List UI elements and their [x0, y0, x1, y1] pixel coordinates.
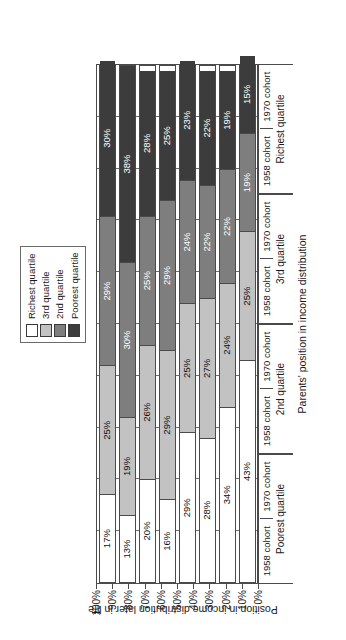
bar-segment[interactable]: 16%	[160, 499, 175, 582]
x-axis-group: 1958 cohort1970 cohort3rd quartile	[259, 194, 293, 324]
segment-value-label: 20%	[142, 521, 152, 540]
bar-segment[interactable]: 19%	[120, 417, 135, 515]
stacked-bar[interactable]: 17%25%29%30%	[99, 65, 116, 583]
legend-item[interactable]: 3rd quartile	[39, 252, 52, 337]
bar-segment[interactable]: 34%	[220, 407, 235, 582]
bar-segment[interactable]: 43%	[240, 360, 255, 582]
y-axis-title: Position in income distribution later in…	[83, 604, 283, 616]
segment-value-label: 29%	[162, 266, 172, 285]
legend-item[interactable]: 2nd quartile	[54, 252, 67, 337]
segment-value-label: 25%	[242, 287, 252, 306]
x-axis-cohort-label: 1958 cohort	[260, 519, 273, 584]
bar-segment[interactable]: 29%	[160, 200, 175, 350]
segment-value-label: 29%	[162, 416, 172, 435]
chart-canvas: Richest quartile3rd quartile2nd quartile…	[0, 0, 346, 640]
segment-value-label: 22%	[202, 118, 212, 137]
segment-value-label: 34%	[222, 485, 232, 504]
stacked-bar[interactable]: 28%27%22%22%	[199, 65, 216, 583]
stacked-bar[interactable]: 20%26%25%28%	[139, 65, 156, 583]
bar-segment[interactable]: 24%	[220, 283, 235, 407]
bar-segment[interactable]: 24%	[180, 180, 195, 304]
segment-value-label: 19%	[122, 457, 132, 476]
segment-value-label: 24%	[182, 232, 192, 251]
stacked-bar[interactable]: 16%29%29%25%	[159, 65, 176, 583]
swatch-richest	[26, 324, 38, 337]
x-axis-group-label: 2nd quartile	[275, 325, 286, 453]
segment-value-label: 38%	[122, 155, 132, 174]
bar-segment[interactable]: 29%	[180, 432, 195, 582]
segment-value-label: 16%	[162, 532, 172, 551]
bar-segment[interactable]: 22%	[200, 185, 215, 299]
segment-value-label: 25%	[182, 359, 192, 378]
legend-item[interactable]: Richest quartile	[25, 252, 38, 337]
bar-segment[interactable]: 29%	[160, 350, 175, 500]
bar-segment[interactable]: 15%	[240, 56, 255, 133]
bar-segment[interactable]: 30%	[120, 262, 135, 417]
segment-value-label: 17%	[102, 529, 112, 548]
bar-segment[interactable]: 25%	[240, 231, 255, 360]
segment-value-label: 22%	[222, 217, 232, 236]
bar-segment[interactable]: 22%	[220, 169, 235, 283]
stacked-bar[interactable]: 43%25%19%15%	[239, 65, 256, 583]
bar-group: 34%24%22%19%43%25%19%15%	[217, 65, 257, 583]
bar-segment[interactable]: 38%	[120, 66, 135, 262]
x-axis-cohort-label: 1970 cohort	[260, 195, 273, 259]
swatch-poorest	[68, 324, 80, 337]
stacked-bar[interactable]: 34%24%22%19%	[219, 65, 236, 583]
bar-segment[interactable]: 19%	[220, 71, 235, 169]
x-axis-cohort-label: 1958 cohort	[260, 129, 273, 194]
bar-segment[interactable]: 30%	[100, 61, 115, 216]
segment-value-label: 22%	[202, 232, 212, 251]
bar-groups: 17%25%29%30%13%19%30%38%20%26%25%28%16%2…	[97, 65, 257, 583]
bar-segment[interactable]: 25%	[140, 216, 155, 345]
swatch-3rd	[40, 324, 52, 337]
segment-value-label: 29%	[182, 498, 192, 517]
bar-segment[interactable]: 20%	[140, 479, 155, 582]
bar-segment[interactable]: 19%	[240, 133, 255, 231]
segment-value-label: 29%	[102, 281, 112, 300]
legend-item-label: 3rd quartile	[41, 271, 51, 319]
bar-group: 17%25%29%30%13%19%30%38%	[97, 65, 137, 583]
segment-value-label: 25%	[102, 421, 112, 440]
bar-group: 20%26%25%28%16%29%29%25%	[137, 65, 177, 583]
segment-value-label: 19%	[222, 111, 232, 130]
x-axis-group: 1958 cohort1970 cohortRichest quartile	[259, 64, 293, 194]
swatch-2nd	[54, 324, 66, 337]
rotated-figure-wrapper: Richest quartile3rd quartile2nd quartile…	[0, 0, 346, 640]
bar-segment[interactable]: 28%	[200, 438, 215, 582]
legend-item[interactable]: Poorest quartile	[68, 252, 81, 337]
segment-value-label: 43%	[242, 462, 252, 481]
segment-value-label: 28%	[202, 501, 212, 520]
bar-segment[interactable]: 26%	[140, 345, 155, 479]
bar-segment[interactable]: 25%	[100, 365, 115, 494]
stacked-bar[interactable]: 13%19%30%38%	[119, 65, 136, 583]
segment-value-label: 28%	[142, 134, 152, 153]
segment-value-label: 19%	[242, 173, 252, 192]
segment-value-label: 25%	[142, 271, 152, 290]
bar-segment[interactable]: 27%	[200, 298, 215, 437]
x-axis-category-labels: 1958 cohort1970 cohortPoorest quartile19…	[259, 64, 293, 584]
segment-value-label: 26%	[142, 403, 152, 422]
bar-segment[interactable]: 25%	[160, 71, 175, 200]
stacked-bar[interactable]: 29%25%24%23%	[179, 65, 196, 583]
x-axis-cohort-label: 1958 cohort	[260, 259, 273, 324]
bar-segment[interactable]: 29%	[100, 216, 115, 366]
bar-segment[interactable]: 17%	[100, 494, 115, 582]
x-axis-group: 1958 cohort1970 cohortPoorest quartile	[259, 454, 293, 584]
x-axis-cohort-label: 1970 cohort	[260, 65, 273, 129]
x-axis-cohort-label: 1970 cohort	[260, 455, 273, 519]
x-axis-group: 1958 cohort1970 cohort2nd quartile	[259, 324, 293, 454]
bar-segment[interactable]: 13%	[120, 515, 135, 582]
segment-value-label: 23%	[182, 111, 192, 130]
legend-item-label: 2nd quartile	[55, 269, 65, 319]
bar-segment[interactable]: 22%	[200, 71, 215, 185]
bar-segment[interactable]: 25%	[180, 303, 195, 432]
bar-segment[interactable]: 28%	[140, 71, 155, 215]
segment-value-label: 30%	[102, 129, 112, 148]
x-axis-cohort-label: 1970 cohort	[260, 325, 273, 389]
x-axis-title: Parents' position in income distribution	[296, 64, 308, 584]
segment-value-label: 25%	[162, 126, 172, 145]
bar-segment[interactable]: 23%	[180, 61, 195, 180]
x-axis-group-label: Poorest quartile	[275, 455, 286, 583]
chart-legend: Richest quartile3rd quartile2nd quartile…	[20, 246, 86, 343]
